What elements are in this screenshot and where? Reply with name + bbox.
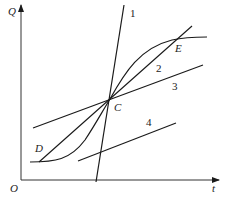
x-axis-label: t (212, 182, 216, 194)
y-axis-label: Q (8, 5, 16, 17)
line-2-label: 2 (156, 62, 162, 74)
diagram-canvas: Q t O 1 2 3 4 C D E (0, 0, 225, 200)
point-d-label: D (34, 142, 43, 154)
line-1 (96, 5, 124, 182)
point-e-label: E (174, 42, 182, 54)
line-2 (39, 26, 192, 162)
origin-label: O (10, 182, 18, 194)
line-4-label: 4 (146, 116, 152, 128)
point-c-label: C (114, 101, 122, 113)
line-3 (33, 65, 203, 128)
line-1-label: 1 (130, 7, 136, 19)
s-curve (30, 37, 207, 162)
line-3-label: 3 (172, 80, 178, 92)
